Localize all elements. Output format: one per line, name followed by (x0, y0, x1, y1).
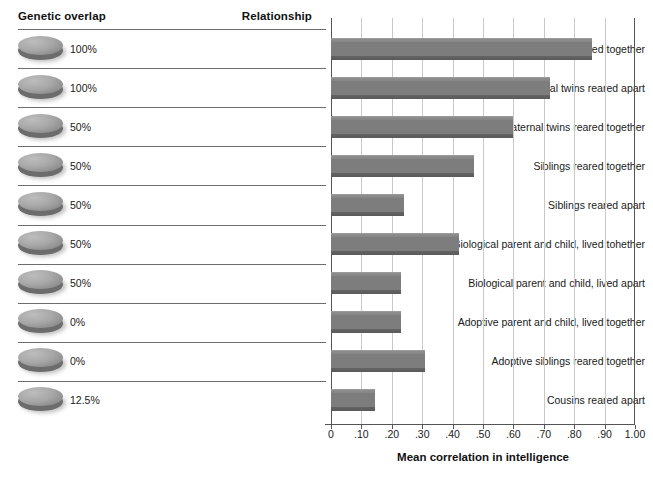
axis-tick-label: .20 (384, 428, 399, 440)
genetic-overlap-value: 0% (70, 316, 85, 328)
bar[interactable] (331, 116, 513, 138)
row-separator (18, 146, 326, 147)
disc-top (18, 192, 63, 211)
genetic-overlap-value: 50% (70, 277, 91, 289)
bar-row (331, 303, 635, 342)
genetic-overlap-disc-icon (18, 309, 66, 335)
header-genetic-overlap: Genetic overlap (18, 10, 106, 22)
genetic-overlap-disc-icon (18, 192, 66, 218)
row-separator (18, 303, 326, 304)
genetic-overlap-disc-icon (18, 348, 66, 374)
genetic-overlap-disc-icon (18, 231, 66, 257)
genetic-overlap-value: 12.5% (70, 394, 100, 406)
bar-row (331, 342, 635, 381)
genetic-overlap-value: 0% (70, 355, 85, 367)
bar-row (331, 225, 635, 264)
bar-row (331, 146, 635, 185)
bar[interactable] (331, 389, 375, 411)
axis-tick-label: 1.00 (625, 428, 645, 440)
row-separator (18, 185, 326, 186)
row-separator (18, 264, 326, 265)
axis-tick-label: .80 (567, 428, 582, 440)
bar[interactable] (331, 38, 592, 60)
genetic-overlap-disc-icon (18, 75, 66, 101)
x-axis-tick-labels: 0.10.20.30.40.50.60.70.80.901.00 (331, 428, 635, 444)
bar[interactable] (331, 311, 401, 333)
genetic-overlap-disc-icon (18, 36, 66, 62)
bar-row (331, 29, 635, 68)
bar[interactable] (331, 155, 474, 177)
row-separator (18, 342, 326, 343)
x-axis-title: Mean correlation in intelligence (331, 451, 635, 463)
genetic-overlap-value: 100% (70, 43, 97, 55)
genetic-overlap-disc-icon (18, 270, 66, 296)
disc-top (18, 387, 63, 406)
row-separator (18, 29, 326, 30)
disc-top (18, 348, 63, 367)
bar-chart-plot (331, 18, 635, 425)
disc-top (18, 270, 63, 289)
header-relationship: Relationship (242, 10, 312, 22)
axis-tick-label: .70 (536, 428, 551, 440)
bar[interactable] (331, 233, 459, 255)
bars-container (331, 29, 635, 420)
bar-row (331, 107, 635, 146)
genetic-overlap-disc-icon (18, 153, 66, 179)
disc-top (18, 153, 63, 172)
disc-top (18, 309, 63, 328)
genetic-overlap-value: 50% (70, 121, 91, 133)
genetic-overlap-disc-icon (18, 387, 66, 413)
disc-top (18, 231, 63, 250)
genetic-overlap-value: 50% (70, 238, 91, 250)
row-separator (18, 107, 326, 108)
row-separator (18, 68, 326, 69)
axis-tick-label: 0 (328, 428, 334, 440)
bar[interactable] (331, 194, 404, 216)
row-separator (18, 225, 326, 226)
axis-tick-label: .90 (597, 428, 612, 440)
chart-page: Genetic overlap Relationship 100%Identic… (0, 0, 653, 478)
axis-tick-label: .40 (445, 428, 460, 440)
column-headers: Genetic overlap Relationship (0, 10, 320, 30)
genetic-overlap-disc-icon (18, 114, 66, 140)
bar[interactable] (331, 350, 425, 372)
bar-row (331, 185, 635, 224)
disc-top (18, 36, 63, 55)
axis-tick-label: .30 (415, 428, 430, 440)
genetic-overlap-value: 50% (70, 199, 91, 211)
genetic-overlap-value: 100% (70, 82, 97, 94)
bar[interactable] (331, 77, 550, 99)
disc-top (18, 75, 63, 94)
bar-row (331, 68, 635, 107)
bar-row (331, 381, 635, 420)
bar[interactable] (331, 272, 401, 294)
axis-tick-label: .10 (354, 428, 369, 440)
axis-tick-label: .50 (476, 428, 491, 440)
row-separator (18, 381, 326, 382)
bar-row (331, 264, 635, 303)
genetic-overlap-value: 50% (70, 160, 91, 172)
axis-tick-label: .60 (506, 428, 521, 440)
disc-top (18, 114, 63, 133)
